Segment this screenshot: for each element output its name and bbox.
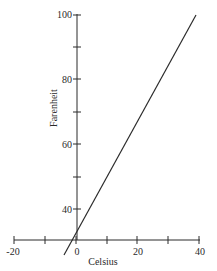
x-tick-label: 0 [75, 246, 80, 257]
y-tick-label: 40 [62, 204, 72, 215]
x-tick-label: 20 [133, 246, 143, 257]
conversion-line [64, 15, 196, 255]
x-tick-label: -20 [6, 246, 19, 257]
y-axis-title: Farenheit [48, 89, 59, 127]
y-tick-label: 60 [62, 139, 72, 150]
x-tick-label: 40 [195, 246, 205, 257]
x-axis-title: Celsius [88, 256, 118, 267]
y-tick-label: 100 [57, 9, 72, 20]
chart-canvas: -20 0 20 40 Celsius 100 80 60 40 Farenhe… [0, 0, 217, 271]
y-tick-label: 80 [62, 74, 72, 85]
y-tick-labels: 100 80 60 40 [57, 9, 72, 215]
